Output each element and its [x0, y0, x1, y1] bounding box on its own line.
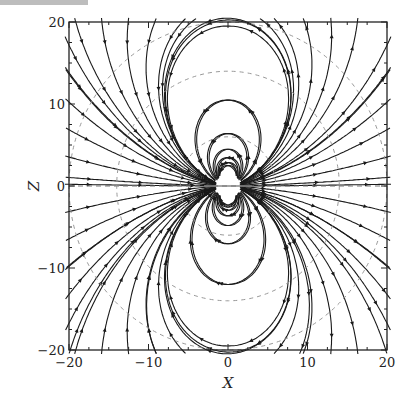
y-tick-label: −20 — [38, 343, 65, 358]
y-tick-label: −10 — [38, 261, 65, 276]
x-tick-labels: −20−1001020 — [55, 355, 395, 370]
y-axis-label: Z — [25, 180, 43, 192]
y-tick-label: 10 — [48, 97, 65, 112]
y-tick-label: 20 — [48, 15, 65, 30]
x-axis-label: X — [222, 374, 235, 392]
streamplot-chart: −20−1001020 −20−1001020 X Z — [0, 0, 406, 411]
x-tick-label: 20 — [379, 355, 396, 370]
x-tick-label: 10 — [299, 355, 316, 370]
x-tick-label: −10 — [135, 355, 162, 370]
y-tick-label: 0 — [57, 179, 65, 194]
x-tick-label: 0 — [224, 355, 232, 370]
